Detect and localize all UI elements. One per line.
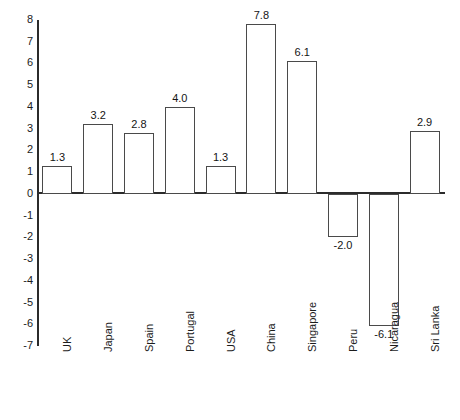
bar-value-label: 6.1 <box>279 47 325 58</box>
x-axis-category-label: Portugal <box>185 311 196 352</box>
y-axis-tick-label: -1 <box>0 210 33 221</box>
bar <box>328 194 358 237</box>
x-axis-category-label: China <box>266 323 277 352</box>
y-axis-tick-label: 5 <box>0 79 33 90</box>
y-axis-tick-label: -2 <box>0 231 33 242</box>
x-axis-category-label: Singapore <box>307 302 318 352</box>
bar <box>83 124 113 194</box>
y-axis-tick-label: 0 <box>0 188 33 199</box>
bar <box>42 166 72 194</box>
y-axis-tick-label: 8 <box>0 14 33 25</box>
y-axis-tick-label: 6 <box>0 57 33 68</box>
bar <box>206 166 236 194</box>
y-axis-tick-label: -6 <box>0 318 33 329</box>
y-axis-tick-label: -4 <box>0 275 33 286</box>
x-axis-category-label: USA <box>226 329 237 352</box>
y-axis-tick-label: -5 <box>0 297 33 308</box>
bar-value-label: 2.8 <box>116 119 162 130</box>
bar <box>246 24 276 194</box>
x-axis-category-label: Peru <box>348 329 359 352</box>
x-axis-category-label: UK <box>62 337 73 352</box>
bar-value-label: 3.2 <box>75 110 121 121</box>
x-axis-category-label: Japan <box>103 322 114 352</box>
bar-value-label: -2.0 <box>320 240 366 251</box>
y-axis-tick-label: 1 <box>0 166 33 177</box>
bar <box>124 133 154 194</box>
plot-area: 1.33.22.84.01.37.86.1-2.0-6.12.9 <box>37 20 445 346</box>
bar <box>165 107 195 194</box>
x-axis-category-label: Sri Lanka <box>430 306 441 352</box>
y-axis-tick-label: -7 <box>0 340 33 351</box>
y-axis-tick-label: 4 <box>0 101 33 112</box>
y-axis-tick-label: 2 <box>0 144 33 155</box>
bar-value-label: 4.0 <box>157 93 203 104</box>
x-axis-category-label: Spain <box>144 324 155 352</box>
bar-value-label: 2.9 <box>402 117 448 128</box>
y-axis-tick-label: 3 <box>0 123 33 134</box>
bar-value-label: 1.3 <box>198 152 244 163</box>
y-axis-tick-label: -3 <box>0 253 33 264</box>
bar-chart: 876543210-1-2-3-4-5-6-7 1.33.22.84.01.37… <box>0 0 460 420</box>
bar-value-label: 1.3 <box>34 152 80 163</box>
bar-value-label: 7.8 <box>238 10 284 21</box>
y-axis-tick-label: 7 <box>0 36 33 47</box>
bar <box>287 61 317 194</box>
x-axis-category-label: Nicaragua <box>389 302 400 352</box>
bar <box>410 131 440 194</box>
